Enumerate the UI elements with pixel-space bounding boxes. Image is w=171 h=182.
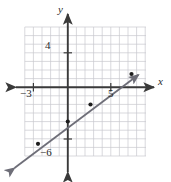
x-axis-label: x	[158, 76, 163, 87]
x-tick-label-neg3: −3	[20, 88, 32, 99]
y-tick-label-neg6: −6	[40, 147, 52, 158]
coordinate-plane-figure: 4 −6 −3 5 x y	[0, 0, 171, 182]
data-point	[66, 119, 70, 123]
x-tick-label-5: 5	[108, 88, 114, 99]
y-tick-label-4: 4	[45, 40, 51, 51]
y-axis-label: y	[58, 4, 63, 15]
grid-lines	[25, 27, 146, 156]
data-point	[129, 72, 133, 76]
data-point	[88, 102, 92, 106]
